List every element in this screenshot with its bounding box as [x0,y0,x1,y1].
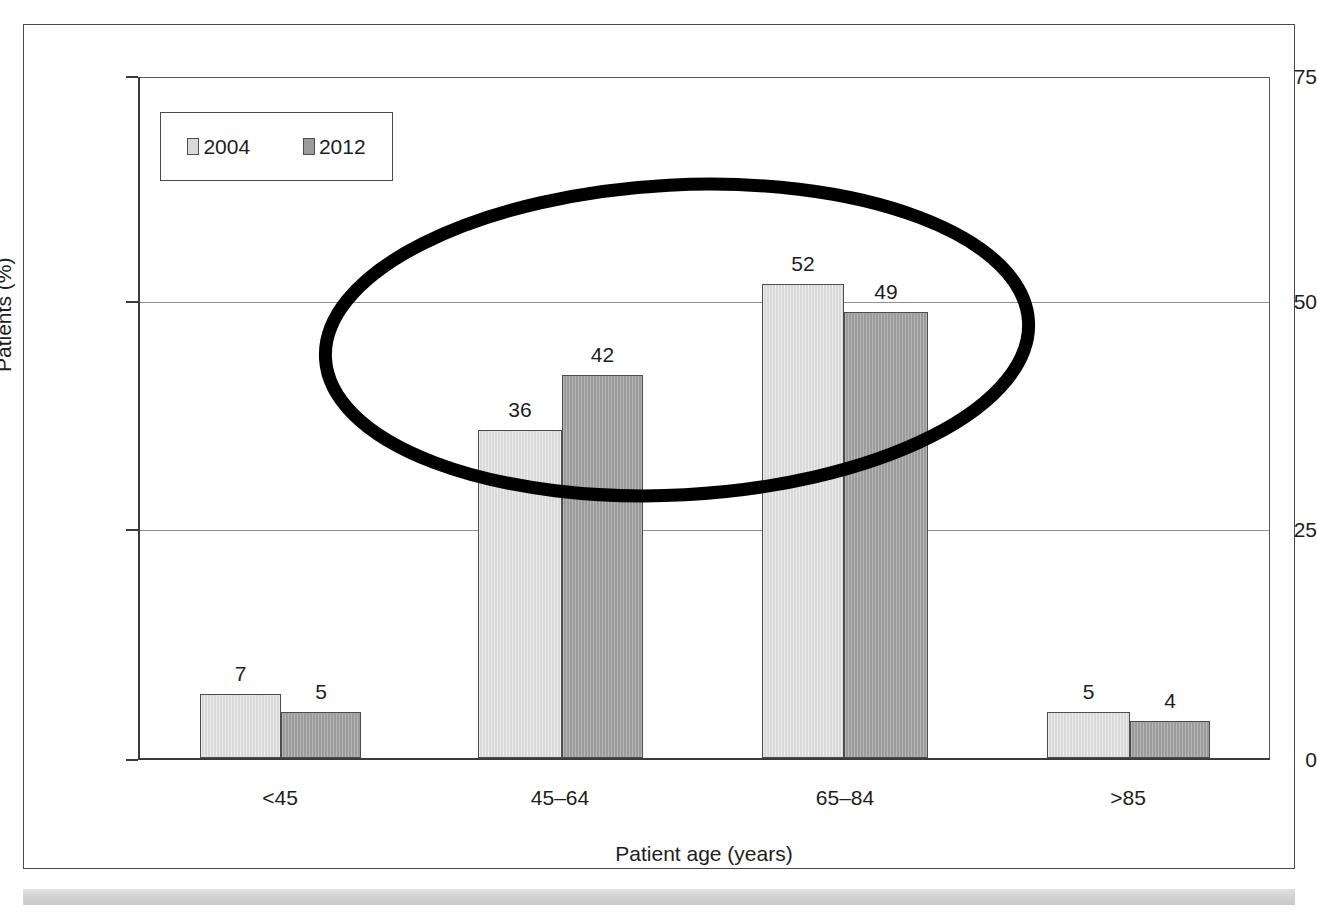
y-axis-title: Patients (%) [0,258,16,372]
bar-2004-45-64[interactable] [478,430,562,758]
bar-2004-65-84[interactable] [762,284,844,758]
x-tick-label-45-64: 45–64 [500,786,620,810]
legend-label-2004: 2004 [203,136,250,157]
bar-2012-over85[interactable] [1130,721,1210,758]
legend-swatch-2012-icon [303,138,315,155]
bar-label-2004-over85: 5 [1047,680,1130,704]
y-tick-mark-25 [126,529,138,531]
bar-2004-under45[interactable] [200,694,281,758]
chart-legend: 2004 2012 [160,112,393,181]
bar-2012-under45[interactable] [281,712,361,758]
y-tick-mark-0 [126,759,138,761]
y-tick-mark-75 [126,76,138,78]
bar-2012-65-84[interactable] [844,312,928,758]
bar-label-2012-over85: 4 [1130,689,1210,713]
bar-2012-45-64[interactable] [562,375,643,758]
bar-label-2004-65-84: 52 [762,252,844,276]
x-tick-label-65-84: 65–84 [785,786,905,810]
y-tick-mark-50 [126,301,138,303]
bar-label-2012-45-64: 42 [562,343,643,367]
legend-entry-2012[interactable]: 2012 [303,136,366,157]
gridline-25 [140,530,1269,531]
x-tick-label-over85: >85 [1068,786,1188,810]
legend-entry-2004[interactable]: 2004 [187,136,250,157]
bar-label-2012-under45: 5 [281,680,361,704]
x-axis-title: Patient age (years) [138,842,1270,866]
gridline-50 [140,302,1269,303]
legend-swatch-2004-icon [187,138,199,155]
bar-chart: Patients (%) 75 50 25 0 7 5 36 42 52 49 … [0,0,1317,919]
bar-label-2004-45-64: 36 [478,398,562,422]
bar-label-2004-under45: 7 [200,662,281,686]
legend-label-2012: 2012 [319,136,366,157]
bar-label-2012-65-84: 49 [844,280,928,304]
x-tick-label-under45: <45 [220,786,340,810]
bar-2004-over85[interactable] [1047,712,1130,758]
